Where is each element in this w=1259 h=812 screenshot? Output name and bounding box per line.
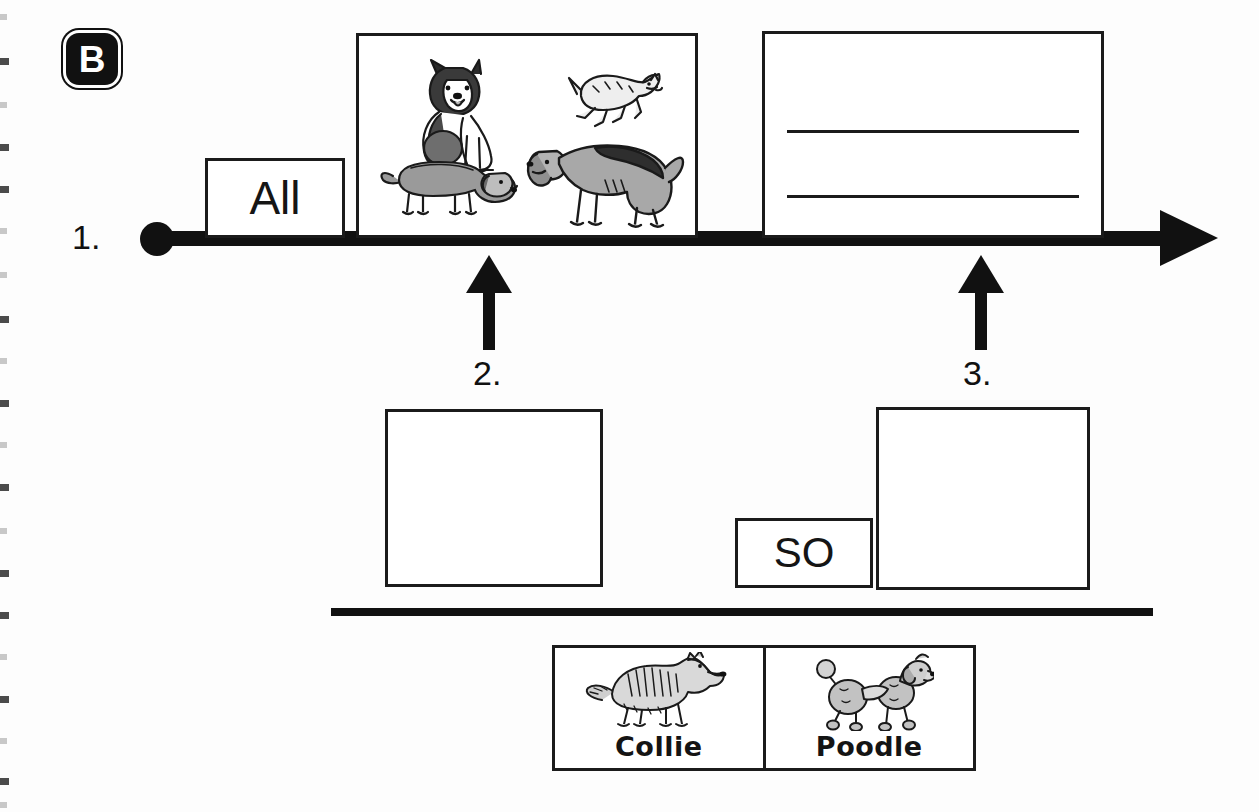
step-3-label: 3. (963, 356, 991, 390)
step-1-label: 1. (72, 220, 100, 254)
callout-arrow-2-icon (466, 255, 512, 350)
section-divider (331, 608, 1153, 616)
section-badge: B (66, 33, 118, 85)
worksheet-page: B 1. All (0, 0, 1259, 812)
blank-box-left[interactable] (385, 409, 603, 587)
blank-box-right[interactable] (876, 407, 1090, 590)
collie-dog-icon (555, 648, 763, 733)
breed-card-collie-label: Collie (615, 733, 702, 766)
picture-box-dogs[interactable] (356, 33, 698, 238)
breed-card-strip: Collie (552, 645, 976, 771)
step-2-label: 2. (473, 356, 501, 390)
word-box-all[interactable]: All (205, 158, 345, 238)
writing-line-1 (787, 130, 1079, 133)
word-box-all-label: All (208, 161, 342, 235)
hound-dog-icon (519, 118, 685, 233)
callout-arrow-3-icon (958, 255, 1004, 350)
timeline-arrowhead-icon (1160, 210, 1218, 266)
breed-card-poodle-label: Poodle (816, 733, 923, 766)
word-box-so-label: SO (738, 521, 870, 585)
breed-card-poodle[interactable]: Poodle (763, 648, 974, 768)
word-box-so[interactable]: SO (735, 518, 873, 588)
writing-line-2 (787, 195, 1079, 198)
poodle-dog-icon (766, 648, 974, 733)
dachshund-dog-icon (377, 146, 525, 224)
lined-answer-box[interactable] (762, 31, 1104, 238)
breed-card-collie[interactable]: Collie (555, 648, 763, 768)
